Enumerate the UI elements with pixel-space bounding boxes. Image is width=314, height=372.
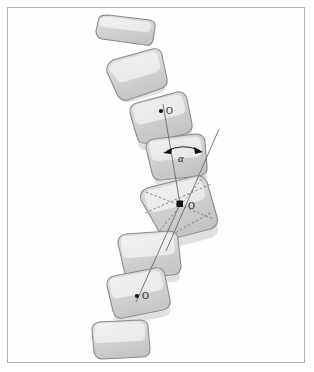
vertebral-diagram: O O O α (0, 0, 314, 372)
center-label-top: O (166, 106, 173, 116)
center-label-middle: O (188, 201, 195, 211)
figure-root: O O O α (0, 0, 314, 372)
vertebra-8 (92, 320, 150, 359)
center-dot-bottom (135, 294, 139, 298)
angle-label: α (178, 153, 184, 164)
vertebra-2 (107, 49, 167, 103)
vertebra-1 (96, 15, 155, 45)
center-square-middle (177, 201, 184, 208)
center-dot-top (159, 109, 163, 113)
center-label-bottom: O (142, 291, 149, 301)
